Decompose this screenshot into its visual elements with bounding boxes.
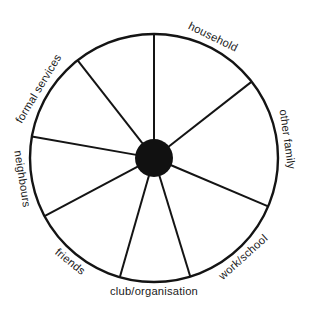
sector-divider-spoke [78,60,143,144]
center-hub-self [135,139,173,177]
sector-divider-spoke [45,166,139,216]
sector-label-other-family: other family [278,109,298,171]
sector-divider-spoke [159,175,190,276]
sector-label-work-school: work/school [215,232,269,283]
sector-divider-spoke [168,82,252,147]
sector-divider-spoke [120,175,149,277]
diagram-canvas: householdother familywork/schoolclub/org… [0,0,316,321]
sector-divider-spoke [32,136,136,154]
hub-group [135,139,173,177]
sector-label-club-organisation: club/organisation [110,285,198,297]
social-network-circle-diagram: householdother familywork/schoolclub/org… [0,0,316,321]
sector-divider-spoke [171,165,269,206]
